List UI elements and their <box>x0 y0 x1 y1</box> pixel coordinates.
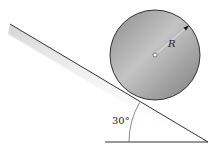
angle-label: 30° <box>112 115 130 126</box>
radius-label: R <box>167 38 176 49</box>
inclined-plane-diagram: R 30° <box>0 0 216 151</box>
center-point <box>153 53 157 57</box>
